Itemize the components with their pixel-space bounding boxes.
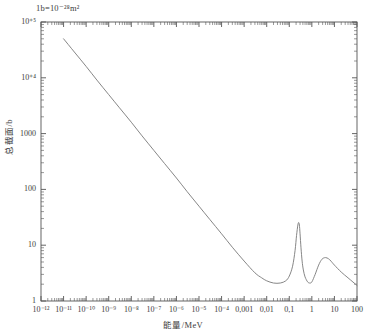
cross-section-chart-figure: 1b=10⁻²⁸m² 能量/MeV 总截面/b 10⁻¹²10⁻¹¹10⁻¹⁰1…: [0, 0, 366, 332]
x-tick-label: 100: [340, 305, 366, 314]
y-tick-label: 10⁺⁵: [0, 17, 36, 26]
x-axis-title: 能量/MeV: [0, 318, 366, 330]
y-tick-label: 1000: [0, 129, 36, 138]
y-tick-label: 10⁺⁴: [0, 73, 36, 82]
y-tick-label: 10: [0, 240, 36, 249]
y-tick-label: 1: [0, 296, 36, 305]
plot-canvas: [0, 0, 366, 332]
y-tick-label: 100: [0, 184, 36, 193]
